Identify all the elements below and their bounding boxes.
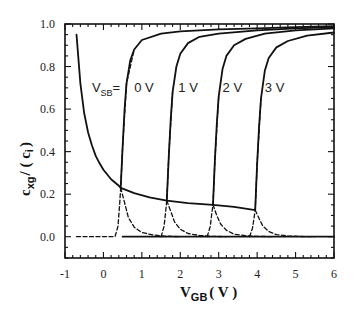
series-line <box>161 92 173 237</box>
series-line <box>213 205 273 237</box>
x-tick-label: 0 <box>100 267 106 281</box>
vsb-value-label: 2 V <box>223 80 243 95</box>
vsb-value-label: 1 V <box>178 80 198 95</box>
annotations: VSB=0 V1 V2 V3 V <box>92 80 285 98</box>
vsb-value-label: 3 V <box>265 80 285 95</box>
x-tick-label: 2 <box>177 267 183 281</box>
x-tick-label: 4 <box>254 267 260 281</box>
y-tick-label: 0.4 <box>40 145 55 159</box>
series-line <box>250 99 262 237</box>
chart-canvas: -101234560.00.20.40.60.81.0 VSB=0 V1 V2 … <box>0 0 354 316</box>
y-tick-label: 0.8 <box>40 60 55 74</box>
series-line <box>255 210 315 237</box>
y-tick-label: 0.2 <box>40 187 55 201</box>
series-line <box>207 96 219 236</box>
y-tick-label: 1.0 <box>40 17 55 31</box>
tick-labels: -101234560.00.20.40.60.81.0 <box>40 17 337 281</box>
series-line <box>167 28 334 205</box>
data-series <box>77 26 335 237</box>
y-tick-label: 0.0 <box>40 230 55 244</box>
axis-ticks <box>65 24 334 258</box>
x-tick-label: 3 <box>216 267 222 281</box>
series-line <box>77 26 335 188</box>
x-axis-title: VGB( V ) <box>180 284 237 303</box>
x-tick-label: 6 <box>331 267 337 281</box>
x-tick-label: -1 <box>60 267 70 281</box>
x-tick-label: 1 <box>139 267 145 281</box>
vsb-label: VSB= <box>92 80 120 98</box>
x-tick-label: 5 <box>293 267 299 281</box>
plot-frame <box>65 24 334 258</box>
y-tick-label: 0.6 <box>40 102 55 116</box>
series-line <box>213 33 334 211</box>
y-axis-title: cxg/ ( ci) <box>17 142 36 196</box>
vsb-value-label: 0 V <box>134 80 154 95</box>
